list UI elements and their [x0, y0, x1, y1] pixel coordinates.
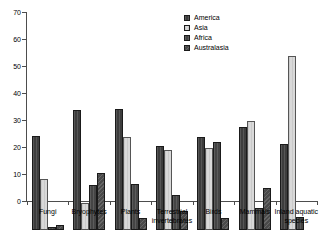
x-axis-tick: [234, 201, 235, 205]
y-axis-tick-label: 30: [1, 117, 21, 124]
x-axis-tick: [110, 201, 111, 205]
bar-group: [239, 41, 271, 230]
y-axis-tick-label: 40: [1, 90, 21, 97]
legend: America Asia Africa Australasia: [184, 13, 229, 53]
y-axis-tick: [22, 147, 26, 148]
bar-group: [115, 41, 147, 230]
y-axis-tick: [22, 39, 26, 40]
bar-group: [156, 41, 188, 230]
y-axis-tick: [22, 201, 26, 202]
bar: [56, 225, 64, 230]
y-axis-tick-label: 60: [1, 36, 21, 43]
bar: [288, 56, 296, 230]
y-axis-tick-label: 0: [1, 198, 21, 205]
y-axis-tick-label: 50: [1, 63, 21, 70]
legend-swatch-america-icon: [184, 15, 190, 21]
legend-item[interactable]: Asia: [184, 23, 229, 32]
y-axis-tick: [22, 174, 26, 175]
bar: [48, 227, 56, 230]
bar: [97, 173, 105, 230]
bar: [213, 142, 221, 230]
y-axis-tick: [22, 66, 26, 67]
bar-group: [280, 41, 312, 230]
legend-label: America: [194, 14, 220, 21]
x-axis-tick: [193, 201, 194, 205]
x-axis-tick: [151, 201, 152, 205]
legend-item[interactable]: America: [184, 13, 229, 22]
y-axis-tick: [22, 12, 26, 13]
legend-label: Australasia: [194, 44, 229, 51]
y-axis-tick: [22, 120, 26, 121]
legend-swatch-africa-icon: [184, 35, 190, 41]
legend-swatch-australasia-icon: [184, 45, 190, 51]
legend-item[interactable]: Africa: [184, 33, 229, 42]
legend-swatch-asia-icon: [184, 25, 190, 31]
bar-group: [32, 41, 64, 230]
y-axis-tick-label: 20: [1, 144, 21, 151]
y-axis-line: [26, 12, 27, 202]
y-axis-tick-label: 10: [1, 171, 21, 178]
legend-label: Africa: [194, 34, 212, 41]
x-axis-category-label: Inland aquatic species: [270, 208, 323, 225]
x-axis-tick: [317, 201, 318, 205]
legend-label: Asia: [194, 24, 208, 31]
y-axis-tick: [22, 93, 26, 94]
bar-chart: 010203040506070 FungiBryophytesPlantsTer…: [0, 0, 325, 230]
x-axis-tick: [276, 201, 277, 205]
bar: [40, 179, 48, 230]
bar-group: [197, 41, 229, 230]
legend-item[interactable]: Australasia: [184, 43, 229, 52]
bar: [205, 148, 213, 230]
x-axis-tick: [27, 201, 28, 205]
bar-group: [73, 41, 105, 230]
x-axis-tick: [68, 201, 69, 205]
bar: [221, 218, 229, 230]
y-axis-tick-label: 70: [1, 9, 21, 16]
